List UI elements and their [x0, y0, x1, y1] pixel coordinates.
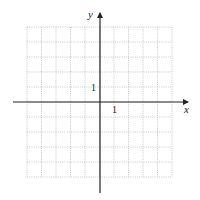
coordinate-plane: y x 1 1 — [0, 0, 200, 200]
y-axis-label: y — [87, 8, 93, 20]
y-unit-tick-label: 1 — [91, 82, 96, 93]
x-unit-tick-label: 1 — [112, 104, 117, 115]
x-axis-label: x — [183, 103, 189, 115]
